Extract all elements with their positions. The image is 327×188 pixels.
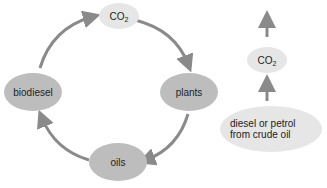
biodiesel-node: biodiesel <box>4 73 62 111</box>
co2-subscript: 2 <box>125 14 129 25</box>
fossil-co2-label: CO <box>258 55 273 66</box>
oils-node: oils <box>89 143 147 181</box>
source-line2: from crude oil <box>230 129 291 140</box>
arrow-biodiesel-to-co2 <box>40 17 92 68</box>
co2-label: CO <box>110 11 125 22</box>
source-line1: diesel or petrol <box>230 118 296 129</box>
biodiesel-label: biodiesel <box>13 87 52 98</box>
fossil-co2-node: CO2 <box>247 47 287 73</box>
fossil-source-node: diesel or petrol from crude oil <box>220 106 322 152</box>
plants-label: plants <box>176 87 203 98</box>
oils-label: oils <box>110 157 125 168</box>
arrow-oils-to-biodiesel <box>42 118 89 160</box>
cycle-co2-node: CO2 <box>99 3 139 29</box>
fossil-co2-subscript: 2 <box>273 58 277 69</box>
arrow-plants-to-oils <box>146 114 188 160</box>
plants-node: plants <box>160 73 218 111</box>
arrow-co2-to-plants <box>135 20 188 64</box>
